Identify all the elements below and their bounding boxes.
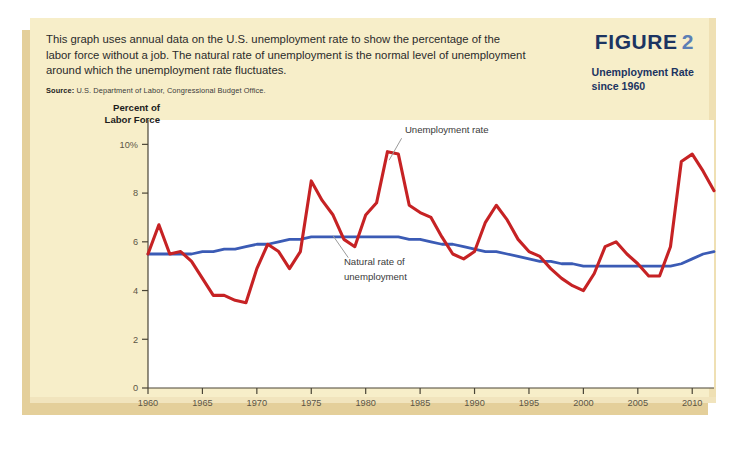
unemployment-rate-label: Unemployment rate: [405, 124, 489, 135]
series-line-unemployment-rate: [148, 152, 714, 303]
x-tick-label: 1980: [355, 398, 375, 408]
x-tick-label: 2005: [628, 398, 648, 408]
chart-svg: 0246810%19601965197019751980198519901995…: [118, 118, 714, 403]
figure-number: 2: [682, 30, 694, 53]
y-tick-label: 6: [133, 237, 138, 247]
y-tick-label: 8: [133, 188, 138, 198]
figure-page: This graph uses annual data on the U.S. …: [0, 0, 740, 453]
x-tick-label: 2010: [682, 398, 702, 408]
natural-rate-label2: unemployment: [344, 271, 407, 282]
figure-description: This graph uses annual data on the U.S. …: [46, 32, 526, 79]
x-tick-label: 1985: [410, 398, 430, 408]
figure-subtitle-line2: since 1960: [592, 79, 694, 93]
x-tick-label: 1960: [138, 398, 158, 408]
chart-area: Percent of Labor Force 0246810%196019651…: [118, 118, 714, 403]
y-axis-title-line1: Percent of: [82, 102, 160, 114]
figure-source: Source: U.S. Department of Labor, Congre…: [46, 86, 516, 95]
series-line-natural-rate: [148, 237, 714, 266]
natural-rate-label: Natural rate of: [344, 256, 405, 267]
y-tick-label: 4: [133, 286, 138, 296]
source-label: Source:: [46, 86, 74, 95]
source-text: U.S. Department of Labor, Congressional …: [76, 86, 265, 95]
y-tick-label: 10%: [120, 140, 138, 150]
figure-header: FIGURE2 Unemployment Rate since 1960: [592, 30, 694, 93]
y-tick-label: 0: [133, 383, 138, 393]
x-tick-label: 1990: [464, 398, 484, 408]
y-tick-label: 2: [133, 335, 138, 345]
x-tick-label: 2000: [573, 398, 593, 408]
x-tick-label: 1975: [301, 398, 321, 408]
figure-subtitle-line1: Unemployment Rate: [592, 65, 694, 79]
figure-card: This graph uses annual data on the U.S. …: [30, 18, 716, 403]
figure-title-line: FIGURE2: [592, 30, 694, 54]
figure-label: FIGURE: [595, 30, 678, 53]
x-tick-label: 1965: [192, 398, 212, 408]
x-tick-label: 1970: [247, 398, 267, 408]
x-tick-label: 1995: [519, 398, 539, 408]
figure-subtitle: Unemployment Rate since 1960: [592, 65, 694, 93]
